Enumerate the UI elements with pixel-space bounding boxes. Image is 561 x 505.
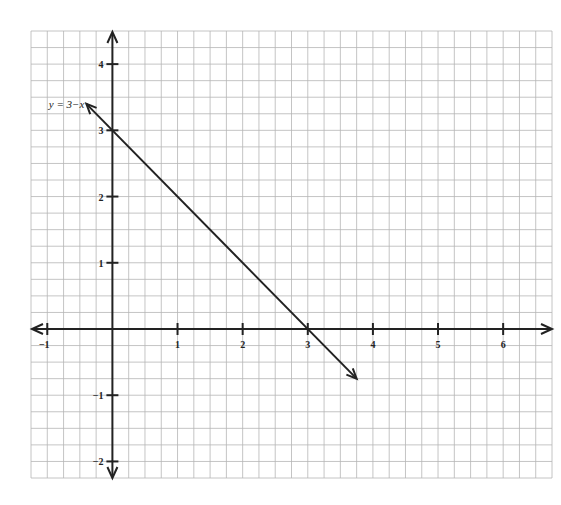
x-tick-label: 6	[501, 339, 506, 350]
grid-lines	[31, 31, 552, 478]
x-tick-label: 2	[240, 339, 245, 350]
y-tick-label: 2	[98, 192, 103, 203]
y-tick-label: −1	[93, 390, 104, 401]
equation-label: y = 3−x	[48, 98, 85, 110]
x-tick-label: 3	[305, 339, 310, 350]
y-tick-label: 4	[98, 59, 103, 70]
line-y-equals-3-minus-x	[86, 104, 356, 379]
y-tick-label: 1	[98, 258, 103, 269]
axes	[32, 32, 552, 478]
y-tick-label: −2	[93, 456, 104, 467]
x-tick-label: 1	[175, 339, 180, 350]
coordinate-plane: −1123456−2−11234y = 3−x	[0, 0, 561, 505]
x-tick-label: 5	[436, 339, 441, 350]
x-tick-label: −1	[39, 339, 50, 350]
x-tick-label: 4	[370, 339, 375, 350]
y-tick-label: 3	[98, 125, 103, 136]
